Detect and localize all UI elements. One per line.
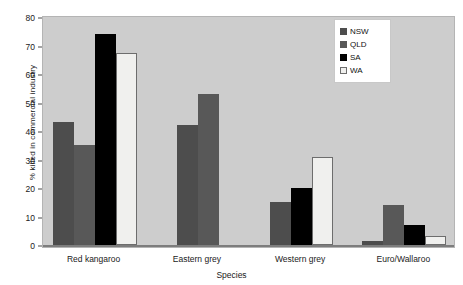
- bar-sa-euro-wallaroo: [404, 225, 425, 245]
- legend-swatch-icon: [340, 41, 347, 48]
- chart-legend: NSWQLDSAWA: [334, 19, 391, 83]
- bar-qld-eastern-grey: [198, 94, 219, 245]
- legend-item-label: SA: [350, 54, 361, 62]
- bar-nsw-eastern-grey: [177, 125, 198, 245]
- x-axis-baseline: [43, 245, 454, 247]
- bar-group: [177, 17, 219, 245]
- y-axis: 01020304050607080: [0, 16, 42, 248]
- bar-nsw-red-kangaroo: [53, 122, 74, 245]
- bar-wa-red-kangaroo: [116, 53, 137, 245]
- plot-area: [42, 16, 455, 248]
- x-axis-title: Species: [0, 270, 463, 280]
- bar-wa-western-grey: [312, 157, 333, 245]
- y-axis-tick-label: 50: [26, 99, 35, 109]
- legend-item-label: WA: [350, 67, 363, 75]
- legend-item-sa[interactable]: SA: [340, 51, 386, 64]
- bar-nsw-western-grey: [270, 202, 291, 245]
- legend-swatch-icon: [340, 67, 347, 74]
- x-axis-tick-label: Euro/Wallaroo: [377, 254, 431, 264]
- y-axis-tick-label: 30: [26, 156, 35, 166]
- legend-swatch-icon: [340, 54, 347, 61]
- bar-group: [53, 17, 137, 245]
- bar-group: [270, 17, 333, 245]
- y-axis-tick-label: 10: [26, 213, 35, 223]
- bar-sa-western-grey: [291, 188, 312, 245]
- y-axis-tick-label: 0: [30, 241, 35, 251]
- legend-item-label: QLD: [350, 41, 366, 49]
- bar-qld-red-kangaroo: [74, 145, 95, 245]
- legend-item-qld[interactable]: QLD: [340, 38, 386, 51]
- bar-sa-red-kangaroo: [95, 34, 116, 245]
- x-axis-tick-label: Red kangaroo: [67, 254, 120, 264]
- y-axis-tick-label: 40: [26, 127, 35, 137]
- bar-nsw-euro-wallaroo: [362, 241, 383, 245]
- x-axis-tick-label: Eastern grey: [173, 254, 221, 264]
- legend-swatch-icon: [340, 28, 347, 35]
- bar-qld-euro-wallaroo: [383, 205, 404, 245]
- legend-item-label: NSW: [350, 28, 369, 36]
- bar-chart: % killed in commercial industry 01020304…: [0, 0, 463, 285]
- y-axis-tick-label: 70: [26, 42, 35, 52]
- y-axis-tick-label: 20: [26, 184, 35, 194]
- x-axis-tick-label: Western grey: [275, 254, 325, 264]
- y-axis-tick-label: 60: [26, 70, 35, 80]
- y-axis-tick-label: 80: [26, 13, 35, 23]
- legend-item-nsw[interactable]: NSW: [340, 25, 386, 38]
- bar-wa-euro-wallaroo: [425, 236, 446, 245]
- legend-item-wa[interactable]: WA: [340, 64, 386, 77]
